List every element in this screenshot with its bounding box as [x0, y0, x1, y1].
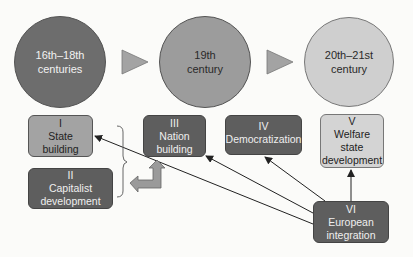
period-label-line1: 19th [194, 48, 215, 62]
process-label: development [40, 195, 100, 208]
process-numeral: V [348, 115, 355, 128]
timeline-arrow-icon [121, 49, 149, 75]
arrow-vi-to-iii [206, 156, 313, 213]
process-box-state-building: I State building [28, 115, 93, 157]
period-label-line1: 16th–18th [36, 48, 85, 62]
period-circle-20th-21st: 20th–21st century [304, 17, 394, 107]
process-box-democratization: IV Democratization [225, 115, 302, 155]
process-box-european-integration: VI European integration [313, 201, 389, 243]
bracket-icon [117, 126, 127, 197]
process-label: European [328, 216, 374, 229]
process-label: State [48, 130, 73, 143]
process-box-nation-building: III Nation building [143, 115, 206, 157]
timeline-arrow-icon [266, 49, 294, 75]
process-label: Democratization [226, 133, 302, 146]
period-circle-19th: 19th century [159, 16, 251, 108]
period-label-line1: 20th–21st [325, 48, 373, 62]
process-label: Nation [159, 130, 189, 143]
process-label: development [322, 154, 382, 167]
bent-block-arrow-icon [130, 160, 165, 192]
process-label: integration [326, 229, 375, 242]
process-numeral: II [68, 169, 74, 182]
process-label: Welfare [334, 128, 370, 141]
process-label: building [42, 143, 78, 156]
process-label: state [341, 141, 364, 154]
period-label-line2: centuries [38, 62, 83, 76]
process-numeral: IV [259, 120, 269, 133]
arrow-vi-to-iv [265, 157, 325, 201]
process-numeral: VI [346, 203, 356, 216]
process-numeral: III [170, 117, 179, 130]
process-box-capitalist-development: II Capitalist development [28, 168, 113, 209]
process-box-welfare-state-development: V Welfare state development [320, 114, 384, 168]
period-circle-16th-18th: 16th–18th centuries [14, 16, 106, 108]
process-label: building [156, 143, 192, 156]
process-label: Capitalist [49, 182, 92, 195]
period-label-line2: century [187, 62, 223, 76]
period-label-line2: century [331, 62, 367, 76]
process-numeral: I [59, 117, 62, 130]
